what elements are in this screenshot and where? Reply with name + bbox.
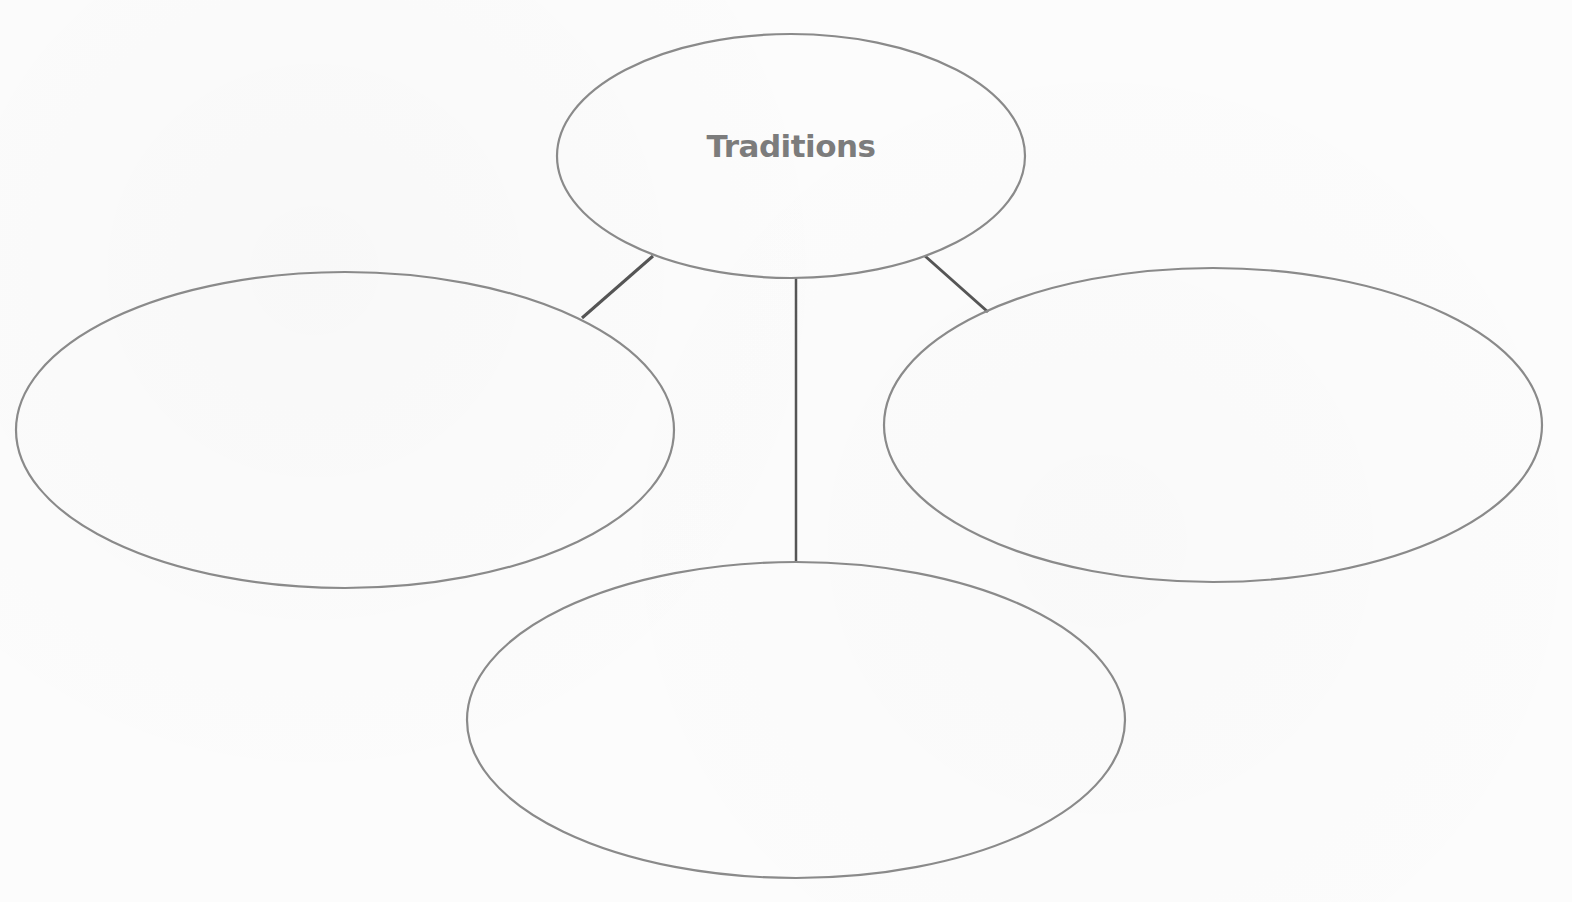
- branch-node-bottom[interactable]: [467, 562, 1125, 878]
- branch-node-right[interactable]: [884, 268, 1542, 582]
- connector-right: [925, 256, 988, 312]
- connector-left: [582, 256, 653, 318]
- center-node-label: Traditions: [557, 128, 1025, 164]
- branch-node-left[interactable]: [16, 272, 674, 588]
